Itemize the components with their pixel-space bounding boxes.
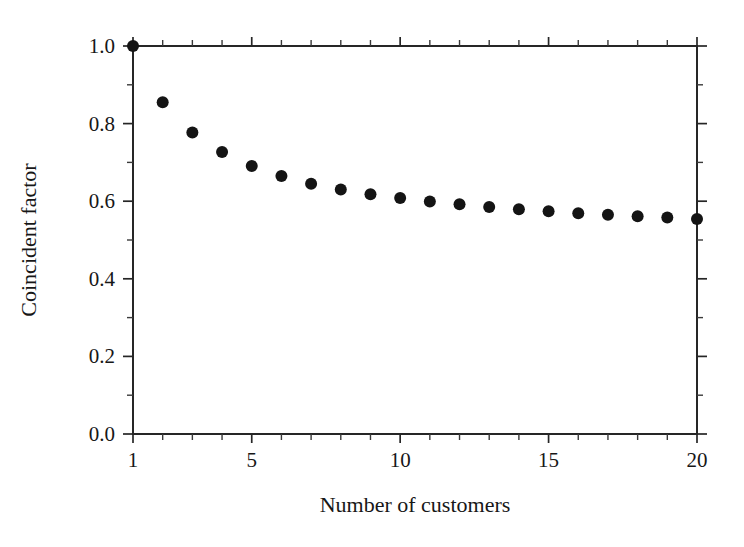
data-point (602, 209, 614, 221)
data-point (572, 207, 584, 219)
x-tick-label: 20 (687, 448, 708, 472)
data-point (394, 192, 406, 204)
data-point (454, 198, 466, 210)
data-point (186, 127, 198, 139)
data-point (632, 210, 644, 222)
data-point (364, 188, 376, 200)
data-point (275, 170, 287, 182)
data-point (513, 203, 525, 215)
data-point (483, 201, 495, 213)
data-point (216, 146, 228, 158)
data-point (424, 196, 436, 208)
y-axis-title: Coincident factor (16, 163, 41, 317)
y-tick-label: 1.0 (89, 34, 115, 58)
data-point (157, 96, 169, 108)
x-tick-label: 10 (390, 448, 411, 472)
x-tick-label: 5 (246, 448, 257, 472)
y-tick-label: 0.8 (89, 112, 115, 136)
scatter-plot-canvas: 15101520 0.00.20.40.60.81.0 Number of cu… (0, 0, 744, 547)
data-point (127, 40, 139, 52)
y-tick-label: 0.0 (89, 422, 115, 446)
y-tick-label: 0.2 (89, 344, 115, 368)
data-point (335, 184, 347, 196)
x-tick-label: 15 (538, 448, 559, 472)
chart-figure: 15101520 0.00.20.40.60.81.0 Number of cu… (0, 0, 744, 547)
data-point (661, 211, 673, 223)
data-point (305, 178, 317, 190)
data-point (691, 213, 703, 225)
y-tick-label: 0.4 (89, 267, 116, 291)
data-point (246, 160, 258, 172)
x-tick-label: 1 (128, 448, 139, 472)
x-axis-title: Number of customers (320, 492, 511, 517)
y-tick-label: 0.6 (89, 189, 115, 213)
data-point (543, 205, 555, 217)
